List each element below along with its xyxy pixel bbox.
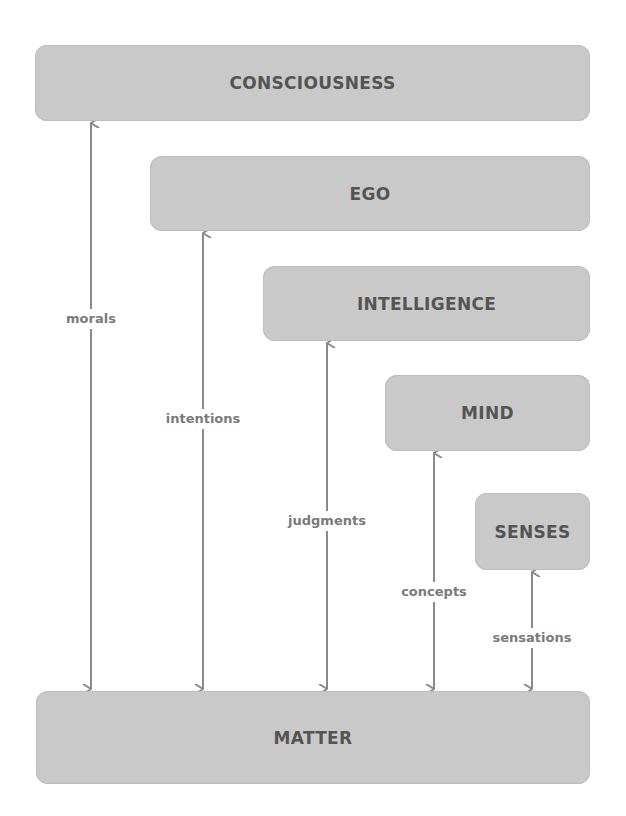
ego-label: EGO	[350, 184, 391, 204]
senses-label: SENSES	[495, 522, 571, 542]
intentions-label: intentions	[164, 409, 243, 429]
senses-box: SENSES	[475, 493, 590, 570]
consciousness-box: CONSCIOUSNESS	[35, 45, 590, 121]
intelligence-label: INTELLIGENCE	[357, 294, 496, 314]
matter-label: MATTER	[274, 728, 353, 748]
intelligence-box: INTELLIGENCE	[263, 266, 590, 341]
mind-label: MIND	[461, 403, 514, 423]
mind-box: MIND	[385, 375, 590, 451]
morals-label: morals	[64, 309, 118, 329]
consciousness-label: CONSCIOUSNESS	[229, 73, 395, 93]
matter-box: MATTER	[36, 691, 590, 784]
concepts-label: concepts	[399, 582, 469, 602]
ego-box: EGO	[150, 156, 590, 231]
sensations-label: sensations	[491, 628, 574, 648]
judgments-label: judgments	[286, 511, 368, 531]
